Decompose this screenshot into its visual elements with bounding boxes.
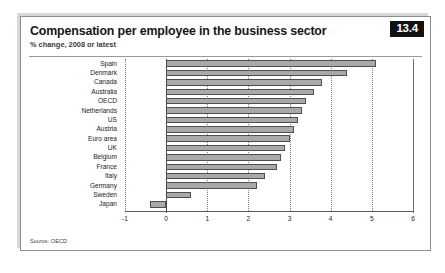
bar <box>166 70 347 76</box>
bars-container <box>125 59 413 209</box>
chart-number-badge: 13.4 <box>390 21 424 37</box>
category-label: Canada <box>94 78 117 86</box>
x-tick-label: 4 <box>329 215 333 222</box>
bar <box>166 79 322 85</box>
source-note: Source: OECD <box>30 238 67 244</box>
category-label: Australia <box>91 88 117 96</box>
x-tick-label: -1 <box>122 215 128 222</box>
category-label: Netherlands <box>81 107 117 115</box>
x-tick-label: 6 <box>411 215 415 222</box>
category-label: US <box>108 116 117 124</box>
category-label: Euro area <box>88 135 117 143</box>
x-axis-line <box>125 211 413 212</box>
bar <box>166 126 294 132</box>
header-divider <box>29 56 422 57</box>
bar <box>166 98 306 104</box>
category-label: Germany <box>90 182 117 190</box>
bar <box>166 154 281 160</box>
category-label: Austria <box>96 125 117 133</box>
x-tick-label: 3 <box>288 215 292 222</box>
plot-area: SpainDenmarkCanadaAustraliaOECDNetherlan… <box>29 59 422 227</box>
gridline-5 <box>372 59 373 211</box>
bar <box>166 135 289 141</box>
category-axis-labels: SpainDenmarkCanadaAustraliaOECDNetherlan… <box>29 59 121 209</box>
category-label: Spain <box>100 60 117 68</box>
bar <box>150 201 166 207</box>
bar <box>166 89 314 95</box>
category-label: OECD <box>98 97 117 105</box>
bar <box>166 164 277 170</box>
chart-title: Compensation per employee in the busines… <box>30 24 421 38</box>
bar <box>166 192 191 198</box>
category-label: Sweden <box>93 191 117 199</box>
bar <box>166 117 298 123</box>
bar <box>166 145 285 151</box>
screenshot-root: Compensation per employee in the busines… <box>0 0 445 273</box>
bar <box>166 107 302 113</box>
gridline-6 <box>413 59 414 213</box>
chart-subtitle: % change, 2008 or latest <box>30 40 421 50</box>
gridline-4 <box>331 59 332 211</box>
bar <box>166 173 265 179</box>
bar <box>166 60 376 66</box>
category-label: UK <box>108 144 117 152</box>
x-tick-label: 5 <box>370 215 374 222</box>
category-label: Belgium <box>93 153 117 161</box>
category-label: Japan <box>99 200 117 208</box>
x-tick-label: 0 <box>164 215 168 222</box>
category-label: France <box>96 163 117 171</box>
category-label: Denmark <box>90 69 117 77</box>
figure-frame: Compensation per employee in the busines… <box>20 16 431 251</box>
x-tick-label: 2 <box>247 215 251 222</box>
category-label: Italy <box>105 172 117 180</box>
figure-header: Compensation per employee in the busines… <box>30 24 421 50</box>
bar <box>166 182 257 188</box>
x-tick-label: 1 <box>205 215 209 222</box>
gridline-neg1 <box>125 59 126 211</box>
